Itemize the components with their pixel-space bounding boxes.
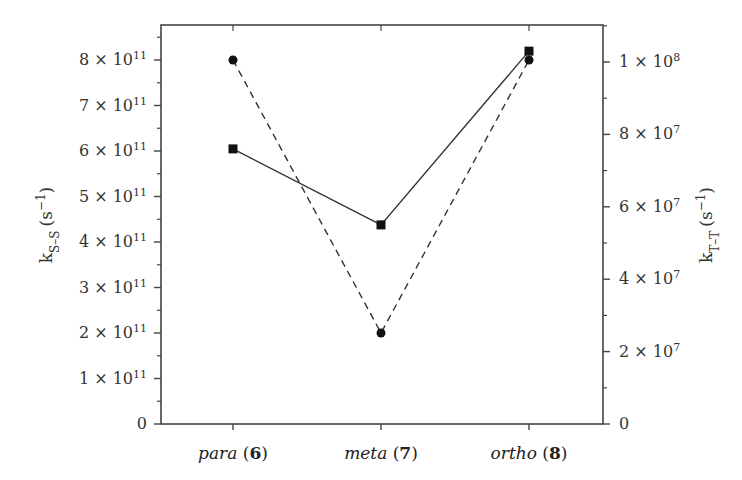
right-axis-ticks: 02 × 1074 × 1076 × 1078 × 1071 × 108 <box>603 26 680 433</box>
left-tick-label: 8 × 1011 <box>79 49 147 70</box>
right-tick-label: 8 × 107 <box>619 123 680 144</box>
left-tick-label: 5 × 1011 <box>79 185 147 206</box>
series-k_S-S <box>229 56 534 338</box>
right-tick-label: 6 × 107 <box>619 195 680 216</box>
left-tick-label: 6 × 1011 <box>79 140 147 161</box>
right-axis-title: kT–T(s−1) <box>694 187 722 263</box>
series-line <box>233 60 529 333</box>
left-axis-title: kS–S(s−1) <box>34 187 62 263</box>
category-label: ortho (8) <box>491 443 568 463</box>
category-label: meta (7) <box>344 443 418 463</box>
x-axis-ticks: para (6)meta (7)ortho (8) <box>198 25 567 463</box>
circle-marker <box>229 56 238 65</box>
data-series <box>229 47 534 338</box>
square-marker <box>229 144 238 153</box>
right-tick-label: 4 × 107 <box>619 268 680 289</box>
square-marker <box>377 220 386 229</box>
left-tick-label: 3 × 1011 <box>79 276 147 297</box>
series-line <box>233 51 529 225</box>
category-label: para (6) <box>198 443 268 463</box>
left-tick-label: 4 × 1011 <box>79 231 147 252</box>
right-tick-label: 1 × 108 <box>619 51 680 72</box>
dual-axis-line-chart: 01 × 10112 × 10113 × 10114 × 10115 × 101… <box>0 0 742 480</box>
right-tick-label: 0 <box>619 414 629 433</box>
circle-marker <box>377 329 386 338</box>
left-axis-ticks: 01 × 10112 × 10113 × 10114 × 10115 × 101… <box>79 37 161 433</box>
left-tick-label: 1 × 1011 <box>79 367 147 388</box>
left-tick-label: 2 × 1011 <box>79 322 147 343</box>
circle-marker <box>525 56 534 65</box>
left-tick-label: 0 <box>137 414 147 433</box>
right-tick-label: 2 × 107 <box>619 340 680 361</box>
series-k_T-T <box>229 47 534 230</box>
left-tick-label: 7 × 1011 <box>79 94 147 115</box>
square-marker <box>525 47 534 56</box>
